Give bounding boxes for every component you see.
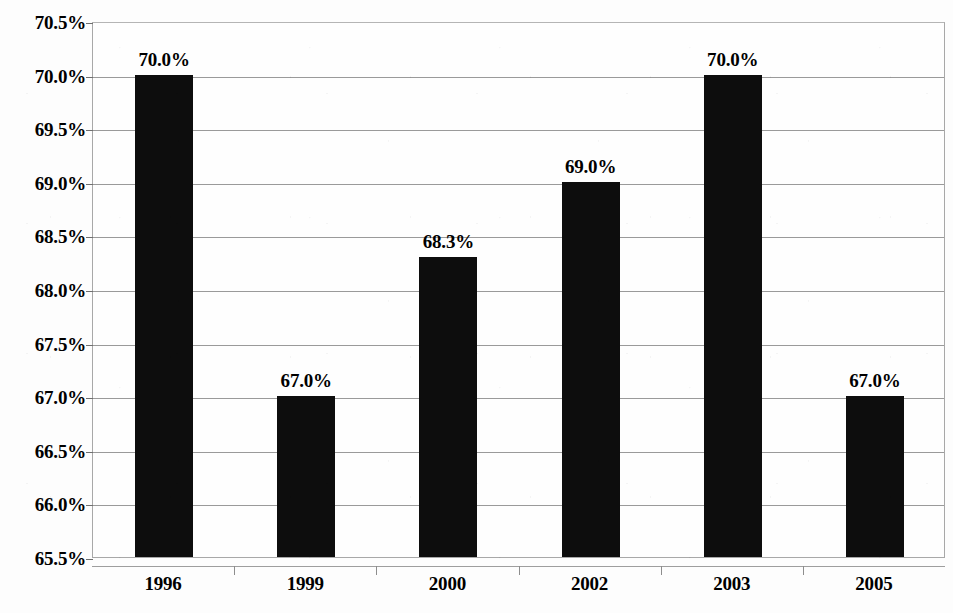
x-axis-separator — [803, 566, 804, 575]
x-axis-separator — [234, 566, 235, 575]
gridline — [93, 505, 944, 506]
gridline — [93, 184, 944, 185]
bar-value-label: 67.0% — [815, 371, 935, 390]
x-axis-tick-label: 2002 — [530, 574, 650, 593]
bar-value-label: 68.3% — [388, 232, 508, 251]
x-axis-tick-label: 2003 — [672, 574, 792, 593]
gridline — [93, 291, 944, 292]
y-axis: 70.5%70.0%69.5%69.0%68.5%68.0%67.5%67.0%… — [0, 0, 86, 613]
bar[interactable] — [277, 396, 335, 557]
y-axis-tick — [86, 398, 93, 399]
y-axis-tick — [86, 559, 93, 560]
y-axis-tick-label: 66.5% — [2, 441, 86, 460]
x-axis-separator — [661, 566, 662, 575]
x-axis-separator — [519, 566, 520, 575]
x-axis-tick-label: 2005 — [814, 574, 934, 593]
y-axis-tick-label: 67.5% — [2, 334, 86, 353]
x-axis-tick-label: 2000 — [387, 574, 507, 593]
y-axis-tick-label: 66.0% — [2, 495, 86, 514]
y-axis-tick-label: 68.0% — [2, 281, 86, 300]
y-axis-tick-label: 68.5% — [2, 227, 86, 246]
gridline — [93, 237, 944, 238]
gridline — [93, 452, 944, 453]
y-axis-tick-label: 69.5% — [2, 120, 86, 139]
bar-value-label: 70.0% — [673, 50, 793, 69]
bar[interactable] — [704, 75, 762, 557]
y-axis-tick-label: 65.5% — [2, 549, 86, 568]
y-axis-tick — [86, 452, 93, 453]
gridline — [93, 345, 944, 346]
y-axis-tick — [86, 291, 93, 292]
bar-value-label: 70.0% — [104, 50, 224, 69]
bar-value-label: 69.0% — [531, 157, 651, 176]
bar[interactable] — [846, 396, 904, 557]
y-axis-tick — [86, 237, 93, 238]
x-axis: 199619992000200220032005 — [92, 566, 945, 610]
y-axis-tick — [86, 77, 93, 78]
gridline — [93, 77, 944, 78]
y-axis-tick-label: 70.5% — [2, 13, 86, 32]
bar[interactable] — [419, 257, 477, 557]
y-axis-tick-label: 70.0% — [2, 66, 86, 85]
bar-value-label: 67.0% — [246, 371, 366, 390]
bar[interactable] — [135, 75, 193, 557]
plot-area: 70.0%67.0%68.3%69.0%70.0%67.0% — [92, 22, 945, 558]
x-axis-tick-label: 1996 — [103, 574, 223, 593]
x-axis-separator — [376, 566, 377, 575]
y-axis-tick — [86, 505, 93, 506]
bar-chart: 70.5%70.0%69.5%69.0%68.5%68.0%67.5%67.0%… — [0, 0, 953, 613]
y-axis-tick-label: 69.0% — [2, 173, 86, 192]
gridline — [93, 130, 944, 131]
gridline — [93, 398, 944, 399]
y-axis-tick — [86, 345, 93, 346]
y-axis-tick — [86, 23, 93, 24]
bar[interactable] — [562, 182, 620, 557]
y-axis-tick-label: 67.0% — [2, 388, 86, 407]
y-axis-tick — [86, 184, 93, 185]
x-axis-tick-label: 1999 — [245, 574, 365, 593]
y-axis-tick — [86, 130, 93, 131]
